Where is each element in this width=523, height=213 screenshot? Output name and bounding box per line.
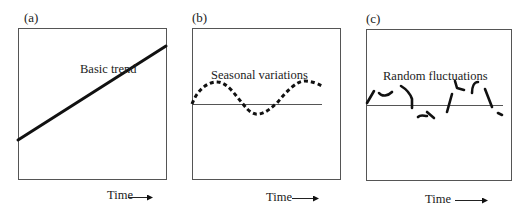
- panel-a: [18, 29, 167, 198]
- x-axis-label-a: Time: [107, 189, 133, 202]
- curve-label-seasonal-variations: Seasonal variations: [211, 69, 308, 82]
- panel-label-b: (b): [192, 11, 207, 24]
- panel-label-c: (c): [366, 12, 380, 25]
- seasonal-curve: [192, 81, 322, 114]
- panel-label-a: (a): [24, 11, 38, 24]
- panel-a-frame: [19, 29, 167, 180]
- x-axis-label-b: Time: [266, 191, 292, 204]
- x-axis-label-c: Time: [425, 193, 451, 206]
- curve-label-basic-trend: Basic trend: [80, 63, 137, 76]
- time-series-components-figure: (a) (b) (c) Basic trend Seasonal variati…: [0, 0, 523, 213]
- plots-canvas: [0, 0, 523, 213]
- panel-c: [366, 30, 512, 201]
- random-fluctuation-segments: [367, 81, 502, 118]
- curve-label-random-fluctuations: Random fluctuations: [383, 70, 488, 83]
- trend-line: [18, 46, 166, 140]
- panel-b: [192, 29, 341, 199]
